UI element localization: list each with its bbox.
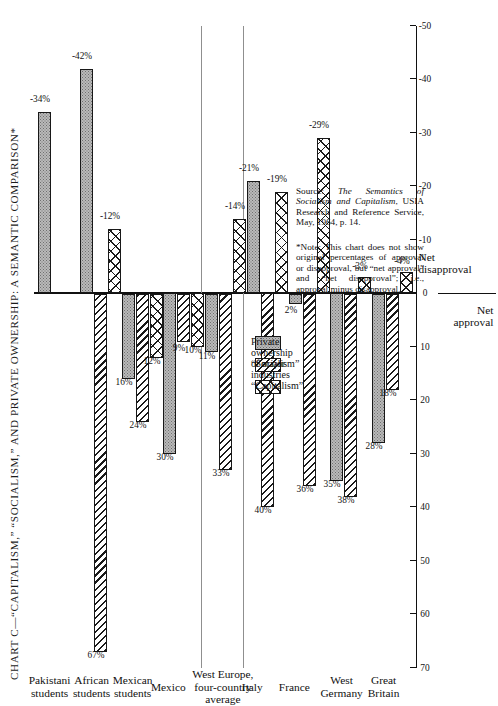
bar	[330, 294, 343, 481]
axis-tick	[410, 667, 416, 668]
bar	[191, 294, 204, 348]
bar	[386, 294, 399, 390]
bar	[303, 294, 316, 487]
axis-tick-label: -50	[419, 21, 432, 31]
plot-area: 706050403020100-10-20-30-40-50Pakistani …	[34, 26, 430, 668]
bar	[94, 294, 107, 652]
bar-value-label: 2%	[284, 305, 296, 315]
bar-value-label: 11%	[199, 351, 216, 361]
bar-value-label: 16%	[115, 378, 132, 388]
category-label: Great Britain	[347, 674, 421, 699]
bar	[177, 294, 190, 342]
bar-value-label: 28%	[366, 442, 383, 452]
axis-tick	[410, 560, 416, 561]
axis-tick	[410, 346, 416, 347]
bar	[219, 294, 232, 471]
bar	[122, 294, 135, 380]
bar	[289, 294, 302, 305]
net-divider-rule	[438, 293, 496, 295]
axis-tick-label: 10	[420, 342, 429, 352]
bar-value-label: 12%	[143, 356, 160, 366]
bar	[372, 294, 385, 444]
bar-value-label: -12%	[100, 211, 120, 221]
group-separator	[243, 26, 244, 668]
bar	[108, 229, 121, 293]
legend-label: “Capitalism”	[251, 380, 303, 391]
bar-value-label: -21%	[239, 163, 259, 173]
axis-tick	[410, 506, 416, 507]
axis-tick-label: 40	[420, 503, 429, 513]
bar	[163, 294, 176, 455]
page-title: CHART C—“CAPITALISM,” “SOCIALISM,” AND P…	[8, 20, 20, 680]
bar-value-label: 30%	[157, 452, 174, 462]
bar-value-label: -19%	[267, 174, 287, 184]
bar-value-label: 33%	[213, 469, 230, 479]
net-disapproval-caption: Net disapproval	[418, 251, 498, 276]
value-axis	[416, 26, 417, 668]
bar-value-label: 18%	[380, 388, 397, 398]
axis-tick-label: -30	[419, 128, 432, 138]
bar-value-label: -29%	[309, 120, 329, 130]
bar-value-label: -34%	[30, 94, 50, 104]
bar-value-label: 36%	[296, 485, 313, 495]
bar-value-label: 24%	[129, 420, 146, 430]
axis-tick-label: -40	[419, 75, 432, 85]
bar-value-label: -42%	[72, 51, 92, 61]
bar	[38, 112, 51, 294]
bar-value-label: 40%	[254, 506, 271, 516]
bar-value-label: 35%	[324, 479, 341, 489]
axis-tick-label: 50	[420, 556, 429, 566]
axis-tick-label: 60	[420, 610, 429, 620]
chart-footnote: *Note: This chart does not show original…	[296, 242, 424, 294]
bar	[261, 294, 274, 508]
bar	[247, 181, 260, 293]
bar	[275, 192, 288, 294]
axis-tick	[410, 78, 416, 79]
axis-tick	[410, 132, 416, 133]
chart-source: Source: The Semantics of Socialism and C…	[296, 186, 424, 228]
bar	[80, 69, 93, 294]
bar-value-label: 38%	[338, 495, 355, 505]
bar-value-label: 67%	[87, 650, 104, 660]
axis-tick	[410, 399, 416, 400]
net-approval-caption: Net approval	[423, 304, 493, 329]
bar	[344, 294, 357, 497]
bar	[150, 294, 163, 358]
axis-tick	[410, 453, 416, 454]
axis-tick-label: 20	[420, 396, 429, 406]
bar	[233, 219, 246, 294]
legend-label: Private ownership of major industries	[251, 336, 293, 380]
axis-tick-label: 70	[420, 663, 429, 673]
axis-tick	[410, 239, 416, 240]
axis-tick-label: 30	[420, 449, 429, 459]
bar	[205, 294, 218, 353]
axis-tick	[410, 613, 416, 614]
bar-value-label: -14%	[225, 201, 245, 211]
axis-tick	[410, 25, 416, 26]
source-title: The Semantics of Socialism and Capitalis…	[296, 186, 424, 206]
